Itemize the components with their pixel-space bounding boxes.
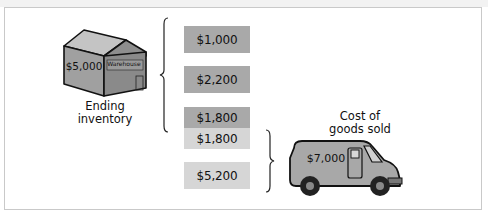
cost-layer-box: $1,800 [184, 107, 250, 128]
warehouse-value: $5,000 [64, 60, 104, 73]
right-brace [264, 128, 276, 194]
cost-layer-box: $2,200 [184, 66, 250, 93]
delivery-truck-icon [288, 138, 408, 198]
cost-layer-box: $1,000 [184, 26, 250, 53]
ending-inventory-caption-2: inventory [70, 113, 140, 126]
cost-layer-box: $1,800 [184, 128, 250, 149]
truck-value: $7,000 [304, 152, 348, 165]
cogs-caption-2: goods sold [320, 123, 400, 136]
left-brace [158, 16, 170, 134]
top-band [0, 0, 488, 7]
cost-layer-box: $5,200 [184, 162, 250, 189]
warehouse-sign: Warehouse [106, 60, 142, 68]
